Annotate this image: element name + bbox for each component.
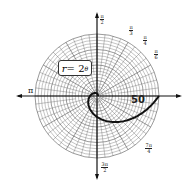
label-half-pi: π2	[100, 14, 104, 25]
label-seven-quarter-pi: 7π4	[145, 143, 152, 154]
label-quarter-pi: π4	[143, 35, 147, 46]
label-fifty: 50	[131, 94, 145, 105]
label-three-half-pi: 3π2	[101, 162, 108, 173]
label-sixth-pi: π6	[154, 49, 158, 60]
label-pi: π	[28, 86, 33, 95]
equation-box: r = 2θ	[58, 60, 92, 76]
label-third-pi: π3	[129, 25, 133, 36]
